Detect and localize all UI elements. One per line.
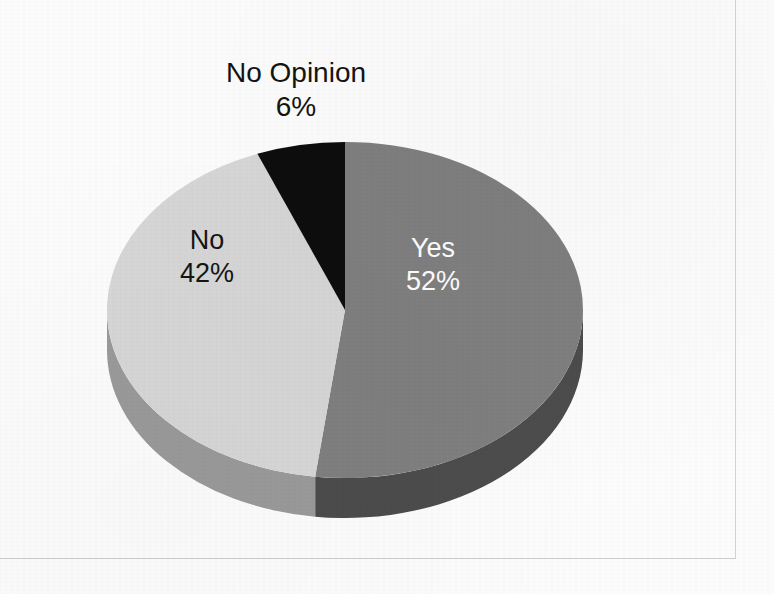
scanned-page: Yes 52% No 42% No Opinion 6% [0,0,774,594]
pie-chart: Yes 52% No 42% No Opinion 6% [0,0,736,558]
pie-top-face [107,142,583,478]
pie-label-no-opinion-value: 6% [196,90,396,124]
pie-label-no-name: No [152,224,262,257]
pie-label-yes: Yes 52% [378,232,488,298]
pie-label-yes-name: Yes [378,232,488,265]
pie-label-no-opinion-name: No Opinion [196,56,396,90]
page-frame-bottom-border [0,558,736,559]
pie-label-no: No 42% [152,224,262,290]
pie-label-no-opinion: No Opinion 6% [196,56,396,124]
pie-label-yes-value: 52% [378,265,488,298]
pie-label-no-value: 42% [152,257,262,290]
